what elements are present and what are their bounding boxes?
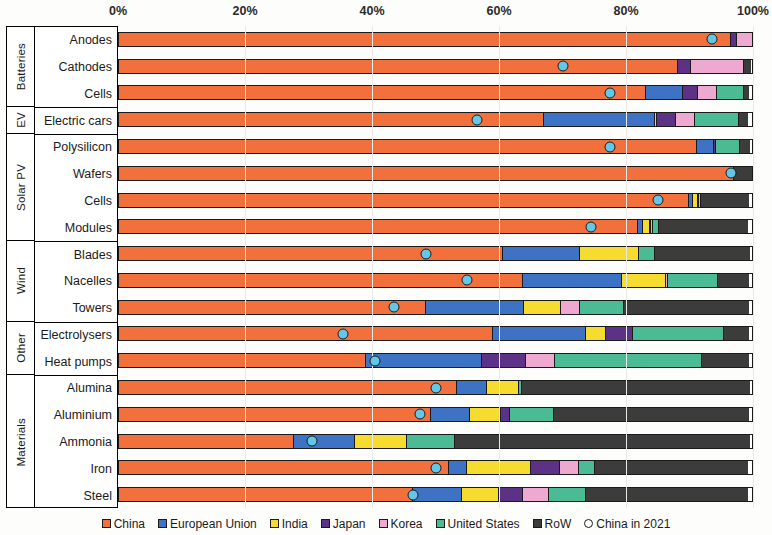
bar-segment-india xyxy=(585,327,606,340)
x-axis-tick-label: 0% xyxy=(109,4,127,18)
bar-segment-japan xyxy=(605,327,633,340)
legend-item-label: Korea xyxy=(391,517,423,531)
legend-item-european-union[interactable]: European Union xyxy=(158,517,257,531)
group-label-other: Other xyxy=(7,322,35,376)
bar-segment-japan xyxy=(481,354,526,367)
china-2021-marker xyxy=(462,275,473,286)
category-label-towers: Towers xyxy=(35,295,117,322)
bar-segment-china xyxy=(119,408,431,421)
bar-segment-china xyxy=(119,60,678,73)
china-2021-marker xyxy=(557,61,568,72)
bar-segment-row xyxy=(739,140,750,153)
bar-segment-european-union xyxy=(543,113,654,126)
category-label-anodes: Anodes xyxy=(35,27,117,54)
china-2021-marker xyxy=(430,382,441,393)
bar-segment-china xyxy=(119,220,638,233)
category-label-cells: Cells xyxy=(35,81,117,108)
gridline xyxy=(626,26,627,508)
bar-segment-row xyxy=(717,274,749,287)
bar-segment-european-union xyxy=(645,86,683,99)
category-label-aluminium: Aluminium xyxy=(35,402,117,429)
gridline xyxy=(245,26,246,508)
bar-segment-china xyxy=(119,167,734,180)
legend-item-india[interactable]: India xyxy=(270,517,308,531)
china-2021-marker xyxy=(408,489,419,500)
legend-item-united-states[interactable]: United States xyxy=(436,517,520,531)
legend-swatch-icon xyxy=(321,519,330,528)
china-2021-marker xyxy=(389,302,400,313)
bar-segment-united-states xyxy=(694,113,739,126)
category-label-modules: Modules xyxy=(35,214,117,241)
bar-segment-european-union xyxy=(293,435,355,448)
legend-item-japan[interactable]: Japan xyxy=(321,517,366,531)
bar-ammonia xyxy=(118,434,753,449)
bar-segment-european-union xyxy=(522,274,622,287)
bar-segment-united-states xyxy=(667,274,718,287)
bar-modules xyxy=(118,219,753,234)
legend-item-label: India xyxy=(282,517,308,531)
group-label-text: Wind xyxy=(15,267,27,294)
bar-segment-row xyxy=(743,86,749,99)
bar-segment-european-union xyxy=(448,461,468,474)
bar-segment-row xyxy=(521,381,750,394)
bar-segment-japan xyxy=(677,60,691,73)
bar-segment-european-union xyxy=(492,327,586,340)
china-2021-marker xyxy=(605,141,616,152)
legend-item-label: European Union xyxy=(170,517,257,531)
bar-segment-india xyxy=(621,274,667,287)
bar-blades xyxy=(118,246,753,261)
plot-area xyxy=(118,26,753,508)
china-2021-marker xyxy=(605,87,616,98)
bar-segment-china xyxy=(119,86,646,99)
group-label-wind: Wind xyxy=(7,241,35,321)
legend-item-label: China xyxy=(114,517,145,531)
chart-legend: ChinaEuropean UnionIndiaJapanKoreaUnited… xyxy=(0,512,772,535)
bar-segment-european-union xyxy=(430,408,470,421)
group-label-ev: EV xyxy=(7,107,35,134)
bar-segment-united-states xyxy=(716,86,744,99)
legend-item-china[interactable]: China xyxy=(102,517,145,531)
group-label-text: Solar PV xyxy=(15,164,27,211)
bar-segment-japan xyxy=(682,86,698,99)
legend-item-korea[interactable]: Korea xyxy=(379,517,423,531)
bar-segment-india xyxy=(461,488,499,501)
legend-item-row[interactable]: RoW xyxy=(533,517,572,531)
group-label-solar-pv: Solar PV xyxy=(7,134,35,241)
bar-segment-row xyxy=(585,488,748,501)
category-label-cells: Cells xyxy=(35,188,117,215)
legend-swatch-icon xyxy=(436,519,445,528)
legend-swatch-icon xyxy=(584,519,593,528)
bar-steel xyxy=(118,487,753,502)
category-label-steel: Steel xyxy=(35,482,117,509)
group-column: BatteriesEVSolar PVWindOtherMaterials xyxy=(6,26,34,508)
bar-anodes xyxy=(118,32,753,47)
bar-towers xyxy=(118,300,753,315)
china-2021-marker xyxy=(306,436,317,447)
category-label-wafers: Wafers xyxy=(35,161,117,188)
bar-segment-india xyxy=(579,247,639,260)
bar-cathodes xyxy=(118,59,753,74)
bar-segment-china xyxy=(119,301,426,314)
category-label-column: AnodesCathodesCellsElectric carsPolysili… xyxy=(34,26,118,508)
bar-segment-china xyxy=(119,33,731,46)
bar-segment-korea xyxy=(559,461,579,474)
bar-segment-row xyxy=(700,194,749,207)
china-2021-marker xyxy=(725,168,736,179)
bar-segment-european-union xyxy=(502,247,580,260)
legend-item-label: United States xyxy=(448,517,520,531)
china-2021-marker xyxy=(586,221,597,232)
bar-segment-row xyxy=(654,247,750,260)
legend-item-china-in-2021[interactable]: China in 2021 xyxy=(584,517,670,531)
bar-segment-china xyxy=(119,461,449,474)
group-label-text: Batteries xyxy=(15,43,27,90)
bar-heat-pumps xyxy=(118,353,753,368)
category-label-blades: Blades xyxy=(35,241,117,268)
bar-wafers xyxy=(118,166,753,181)
china-2021-marker xyxy=(706,34,717,45)
category-label-electrolysers: Electrolysers xyxy=(35,322,117,349)
bar-segment-china xyxy=(119,327,493,340)
group-separator xyxy=(35,107,117,108)
china-2021-marker xyxy=(430,462,441,473)
bar-segment-india xyxy=(486,381,519,394)
bar-electric-cars xyxy=(118,112,753,127)
